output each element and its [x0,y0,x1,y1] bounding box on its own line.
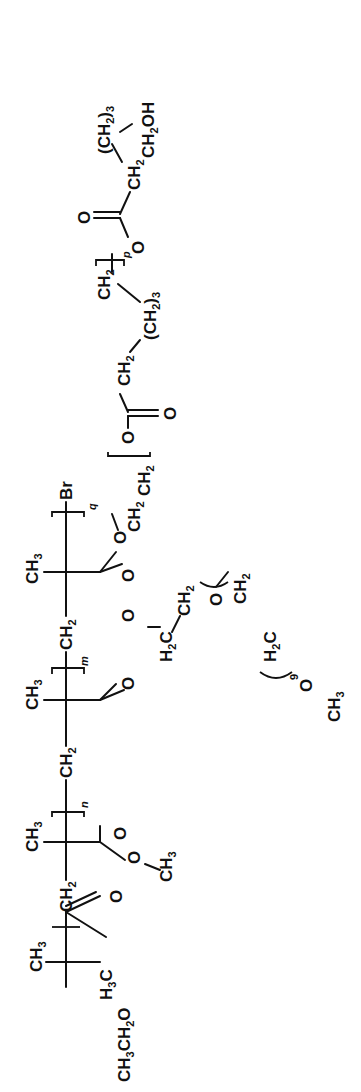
label-ch2-c: CH2 [115,355,136,386]
label-terminal-ch3: CH3 [325,691,346,722]
block-m: CH2 CH3 O O H2C CH2 O CH2 H2C 9 O CH3 m [23,572,346,842]
label-carbonyl-o2: O [75,211,94,224]
label-ch3: CH3 [27,941,48,972]
chemical-structure-diagram: CH3 H3C O CH3CH2O CH2 CH3 O O CH3 n CH2 … [0,0,361,1092]
label-carbonyl-o: O [161,407,180,420]
label-ch2-b: CH2 [135,465,156,496]
label-carbonyl-o: O [119,569,138,582]
label-carbonyl-o: O [119,677,138,690]
label-backbone-ch2: CH2 [57,619,78,650]
label-ester-o2: O [129,241,148,254]
label-carbonyl-o: O [107,890,126,903]
label-carbonyl-o: O [111,827,130,840]
index-m: m [78,656,90,666]
label-peg-h2c: H2C [261,631,282,662]
label-terminal-ch2oh: CH2OH [139,102,160,158]
block-n: CH2 CH3 O O CH3 n [23,801,178,954]
label-ch2-3-a: (CH2)3 [141,292,162,340]
label-backbone-ch2: CH2 [57,747,78,778]
label-ch2: CH2 [175,585,196,616]
label-peg-o: O [207,593,226,606]
initiator-group: CH3 H3C O CH3CH2O [27,890,136,1082]
label-backbone-ch2: CH2 [57,881,78,912]
label-ch2-e: CH2 [125,159,146,190]
label-ch3: CH3 [23,553,44,584]
label-ch2-3-b: (CH2)3 [95,106,116,154]
label-ester-o: O [119,609,138,622]
label-peg-ch2: CH2 [231,573,252,604]
label-methyl: CH3 [157,851,178,882]
label-h2c: H2C [157,631,178,662]
label-ch3: CH3 [23,821,44,852]
label-ester-o: O [119,431,138,444]
label-ch2-a: CH2 [125,501,146,532]
label-h3c: H3C [97,969,118,1000]
label-terminal-o: O [297,679,316,692]
side-chain: CH2 CH2 O O CH2 (CH2)3 CH2 p O O CH2 (CH… [75,102,180,532]
index-q: q [86,503,98,510]
index-n: n [78,801,90,808]
label-ch3: CH3 [23,679,44,710]
label-ch2-d: CH2 [95,269,116,300]
label-ester-o: O [125,851,144,864]
label-end-br: Br [57,481,76,500]
label-ethoxy: CH3CH2O [115,1007,136,1082]
